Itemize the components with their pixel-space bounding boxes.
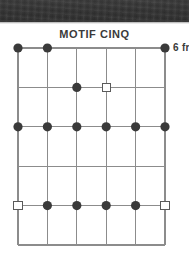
note-dot-filled <box>131 122 140 131</box>
note-dot-filled <box>72 201 81 210</box>
note-dot-filled <box>43 201 52 210</box>
note-dot-filled <box>13 43 22 52</box>
note-dot-filled <box>13 122 22 131</box>
fretboard-svg <box>18 48 165 245</box>
note-dot-filled <box>72 83 81 92</box>
note-dot-filled <box>160 43 169 52</box>
note-square-open <box>102 83 110 91</box>
note-dot-filled <box>102 122 111 131</box>
note-square-open <box>14 202 22 210</box>
note-dot-filled <box>102 201 111 210</box>
scan-artifact-band <box>0 0 189 22</box>
fret-position-label: 6 fr <box>173 42 189 53</box>
note-square-open <box>161 202 169 210</box>
page-root: MOTIF CINQ 6 fr <box>0 0 189 264</box>
note-dot-filled <box>72 122 81 131</box>
page-title: MOTIF CINQ <box>0 28 189 40</box>
note-dot-filled <box>131 201 140 210</box>
note-dot-filled <box>160 122 169 131</box>
fretboard-diagram <box>18 48 165 245</box>
note-dot-filled <box>43 122 52 131</box>
scan-artifact-fade <box>0 20 189 24</box>
note-dot-filled <box>43 43 52 52</box>
